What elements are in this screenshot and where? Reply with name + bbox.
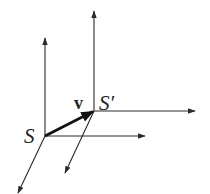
frame-s-prime-depth-axis	[65, 111, 94, 173]
frame-s-prime-label: S′	[99, 93, 114, 114]
frame-s-prime-axes	[65, 11, 195, 173]
frame-s-label: S	[24, 126, 35, 147]
frame-s-axes	[18, 38, 145, 193]
velocity-vector-arrow	[45, 112, 93, 137]
velocity-label: v	[74, 94, 83, 112]
